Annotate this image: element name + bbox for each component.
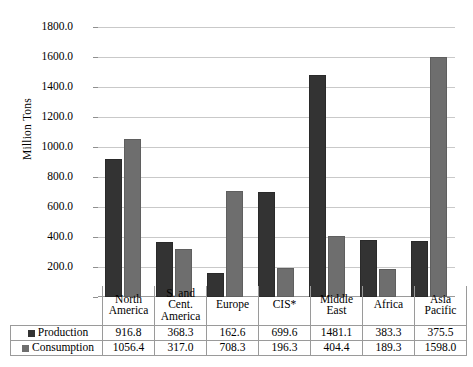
legend-swatch-icon — [28, 330, 35, 337]
y-axis-tick-label: 800.0 — [9, 171, 73, 183]
category-label-line: America — [155, 311, 206, 323]
table-cell-value: 699.6 — [259, 326, 311, 341]
table-cell-value: 404.4 — [311, 341, 363, 356]
bar-group — [98, 27, 149, 297]
bar-consumption — [430, 57, 447, 297]
bar-group — [404, 27, 455, 297]
category-label-line: East — [311, 305, 362, 317]
y-axis-tick-label: 1000.0 — [9, 141, 73, 153]
bar-group — [302, 27, 353, 297]
table-category-header: CIS* — [259, 286, 311, 326]
bar-production — [258, 192, 275, 297]
legend-label: Consumption — [32, 341, 94, 353]
legend-item-production[interactable]: Production — [11, 326, 103, 341]
bar-production — [105, 159, 122, 297]
plot-area: 1800.01600.01400.01200.01000.0800.0600.0… — [98, 27, 455, 297]
bar-group — [251, 27, 302, 297]
table-cell-value: 375.5 — [415, 326, 467, 341]
category-label-line: Europe — [207, 299, 258, 311]
table-category-header: MiddleEast — [311, 286, 363, 326]
table-cell-value: 368.3 — [155, 326, 207, 341]
table-cell-value: 1056.4 — [103, 341, 155, 356]
bar-consumption — [226, 191, 243, 297]
bar-production — [309, 75, 326, 297]
bar-consumption — [124, 139, 141, 297]
table-row-production: Production916.8368.3162.6699.61481.1383.… — [11, 326, 467, 341]
legend-swatch-icon — [22, 345, 29, 352]
table-cell-value: 162.6 — [207, 326, 259, 341]
y-axis-tick-label: 600.0 — [9, 201, 73, 213]
legend-label: Production — [38, 326, 88, 338]
legend-item-consumption[interactable]: Consumption — [11, 341, 103, 356]
category-label-line: CIS* — [259, 299, 310, 311]
table-category-header: NorthAmerica — [103, 286, 155, 326]
table-row-consumption: Consumption1056.4317.0708.3196.3404.4189… — [11, 341, 467, 356]
table-cell-value: 1481.1 — [311, 326, 363, 341]
table-category-header: Europe — [207, 286, 259, 326]
table-cell-value: 196.3 — [259, 341, 311, 356]
table-cell-value: 1598.0 — [415, 341, 467, 356]
category-label-line: Africa — [363, 299, 414, 311]
category-label-line: Pacific — [415, 305, 466, 317]
data-table: NorthAmericaS. andCent.AmericaEuropeCIS*… — [10, 286, 467, 356]
y-axis-tick-label: 200.0 — [9, 261, 73, 273]
table-category-header: Africa — [363, 286, 415, 326]
table-cell-value: 708.3 — [207, 341, 259, 356]
bar-group — [353, 27, 404, 297]
y-axis-tick-label: 1200.0 — [9, 111, 73, 123]
table-cell-value: 916.8 — [103, 326, 155, 341]
table-cell-value: 383.3 — [363, 326, 415, 341]
bar-group — [149, 27, 200, 297]
table-cell-value: 317.0 — [155, 341, 207, 356]
table-category-header: AsiaPacific — [415, 286, 467, 326]
table-row-categories: NorthAmericaS. andCent.AmericaEuropeCIS*… — [11, 286, 467, 326]
table-category-header: S. andCent.America — [155, 286, 207, 326]
table-cell-value: 189.3 — [363, 341, 415, 356]
category-label-line: America — [103, 305, 154, 317]
y-axis-tick-label: 1800.0 — [9, 21, 73, 33]
y-axis-tick-label: 400.0 — [9, 231, 73, 243]
bar-group — [200, 27, 251, 297]
y-axis-tick-label: 1600.0 — [9, 51, 73, 63]
table-corner-blank — [11, 286, 103, 326]
y-axis-tick-label: 1400.0 — [9, 81, 73, 93]
bar-chart: Million Tons 1800.01600.01400.01200.0100… — [0, 0, 473, 367]
